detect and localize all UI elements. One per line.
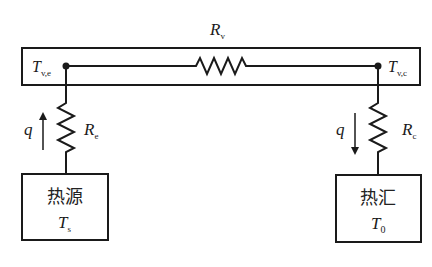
label-rc: Rc	[401, 120, 416, 141]
vapor-resistor-rv	[66, 58, 378, 74]
label-q-right: q	[336, 120, 345, 139]
label-rv: Rv	[209, 20, 225, 41]
evaporator-resistor-re	[58, 66, 74, 174]
label-q-left: q	[24, 120, 33, 139]
condenser-resistor-rc	[370, 66, 386, 175]
label-tve: Tv,e	[32, 58, 51, 78]
heat-source-temp: Ts	[58, 213, 71, 234]
heat-source-title: 热源	[47, 186, 83, 207]
label-tvc: Tv,c	[388, 58, 407, 78]
label-re: Re	[83, 120, 98, 141]
thermal-network-diagram: Rv Tv,e Tv,c q Re q Rc 热源 Ts 热汇 T0	[0, 0, 432, 267]
heat-sink-temp: T0	[371, 214, 385, 235]
heat-sink-title: 热汇	[360, 187, 396, 208]
